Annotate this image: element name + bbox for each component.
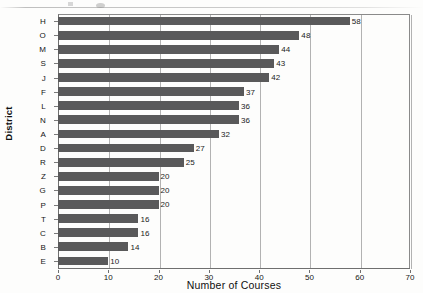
y-tick-H [54,21,58,22]
bar-S[interactable] [58,59,274,68]
y-axis-label-H: H [40,17,46,26]
y-axis-label-T: T [41,214,46,223]
bar-row[interactable]: 42 [58,73,410,82]
bar-value-label-M: 44 [281,45,290,54]
y-axis-label-E: E [40,256,46,265]
bar-row[interactable]: 43 [58,59,410,68]
bar-Z[interactable] [58,172,159,181]
bar-row[interactable]: 20 [58,186,410,195]
bar-value-label-O: 48 [301,31,310,40]
bar-C[interactable] [58,228,138,237]
x-axis-line [58,268,410,269]
y-axis-label-G: G [40,186,46,195]
bar-row[interactable]: 37 [58,87,410,96]
x-axis-title: Number of Courses [58,279,410,291]
bar-J[interactable] [58,73,269,82]
y-tick-F [54,92,58,93]
scan-artifact-smudge [96,3,105,8]
y-tick-P [54,205,58,206]
bar-value-label-B: 14 [130,242,139,251]
bar-value-label-E: 10 [110,256,119,265]
bar-row[interactable]: 58 [58,17,410,26]
y-axis-label-C: C [40,228,46,237]
bar-row[interactable]: 44 [58,45,410,54]
bar-R[interactable] [58,158,184,167]
bars-group: 584844434237363632272520202016161410 [58,14,410,268]
bar-A[interactable] [58,130,219,139]
bar-N[interactable] [58,115,239,124]
bar-row[interactable]: 16 [58,214,410,223]
y-axis-label-M: M [39,45,46,54]
bar-value-label-G: 20 [161,186,170,195]
y-axis-label-D: D [40,144,46,153]
y-tick-M [54,49,58,50]
bar-row[interactable]: 25 [58,158,410,167]
bar-L[interactable] [58,101,239,110]
bar-value-label-R: 25 [186,158,195,167]
bar-value-label-S: 43 [276,59,285,68]
y-tick-B [54,247,58,248]
bar-chart-figure: 584844434237363632272520202016161410 HOM… [0,0,423,293]
bar-value-label-D: 27 [196,144,205,153]
bar-row[interactable]: 20 [58,200,410,209]
y-axis-label-A: A [40,129,46,138]
bar-H[interactable] [58,17,350,26]
bar-B[interactable] [58,242,128,251]
scan-artifact-line [0,7,423,8]
y-axis-label-N: N [40,115,46,124]
bar-value-label-J: 42 [271,73,280,82]
bar-row[interactable]: 14 [58,242,410,251]
y-axis-title: District [3,94,14,154]
bar-row[interactable]: 36 [58,115,410,124]
bar-value-label-A: 32 [221,129,230,138]
bar-value-label-T: 16 [140,214,149,223]
y-tick-N [54,120,58,121]
y-axis-label-B: B [40,242,46,251]
gridline-70 [411,15,412,269]
y-tick-C [54,233,58,234]
y-tick-J [54,78,58,79]
bar-row[interactable]: 16 [58,228,410,237]
bar-value-label-C: 16 [140,228,149,237]
bar-row[interactable]: 27 [58,144,410,153]
y-axis-label-R: R [40,158,46,167]
y-tick-G [54,190,58,191]
bar-row[interactable]: 10 [58,257,410,266]
y-tick-Z [54,176,58,177]
bar-value-label-Z: 20 [161,172,170,181]
y-tick-O [54,35,58,36]
bar-G[interactable] [58,186,159,195]
bar-value-label-P: 20 [161,200,170,209]
y-tick-T [54,219,58,220]
y-tick-E [54,261,58,262]
bar-row[interactable]: 20 [58,172,410,181]
bar-value-label-N: 36 [241,115,250,124]
y-tick-A [54,134,58,135]
y-axis-label-F: F [41,87,46,96]
bar-T[interactable] [58,214,138,223]
bar-row[interactable]: 48 [58,31,410,40]
y-axis-label-Z: Z [41,172,46,181]
y-tick-D [54,148,58,149]
bar-value-label-F: 37 [246,87,255,96]
y-tick-L [54,106,58,107]
bar-P[interactable] [58,200,159,209]
bar-O[interactable] [58,31,299,40]
y-axis-label-S: S [40,59,46,68]
y-axis-label-J: J [42,73,46,82]
bar-D[interactable] [58,144,194,153]
scan-artifact-mark [68,2,73,6]
bar-value-label-L: 36 [241,101,250,110]
bar-M[interactable] [58,45,279,54]
bar-F[interactable] [58,87,244,96]
y-tick-R [54,162,58,163]
bar-row[interactable]: 36 [58,101,410,110]
bar-row[interactable]: 32 [58,130,410,139]
y-axis-label-P: P [40,200,46,209]
bar-E[interactable] [58,257,108,266]
bar-value-label-H: 58 [352,17,361,26]
y-axis-label-L: L [41,101,46,110]
y-tick-S [54,63,58,64]
y-axis-label-O: O [40,31,46,40]
